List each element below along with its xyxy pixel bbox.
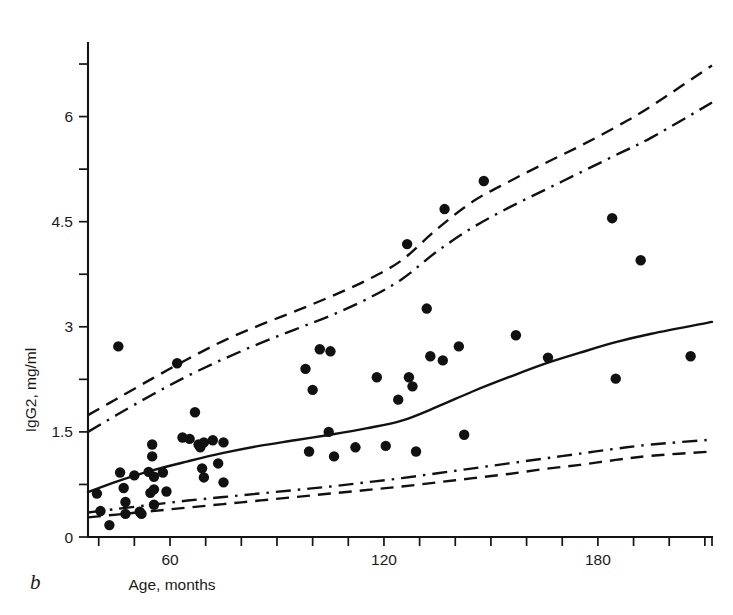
axis-labels-group: 01.534.5660120180: [51, 108, 611, 568]
data-point: [113, 341, 123, 351]
data-point: [149, 484, 159, 494]
data-point: [393, 394, 403, 404]
data-point: [147, 451, 157, 461]
data-point: [213, 458, 223, 468]
data-point: [425, 351, 435, 361]
data-point: [439, 204, 449, 214]
data-point: [511, 330, 521, 340]
data-point: [479, 176, 489, 186]
data-point: [95, 506, 105, 516]
reference-curve-lower-outer: [88, 452, 712, 518]
data-point: [323, 427, 333, 437]
scatter-plot-canvas: 01.534.5660120180 Age, months IgG2, mg/m…: [0, 0, 733, 615]
data-point: [329, 451, 339, 461]
data-point: [199, 437, 209, 447]
y-axis-tick-label: 4.5: [51, 213, 73, 230]
data-point: [543, 352, 553, 362]
reference-curves-group: [88, 65, 712, 517]
data-point: [454, 341, 464, 351]
data-point: [104, 520, 114, 530]
data-point: [438, 355, 448, 365]
data-point: [120, 497, 130, 507]
data-point: [315, 344, 325, 354]
y-axis-tick-label: 6: [64, 108, 73, 125]
data-point: [407, 381, 417, 391]
x-axis-tick-label: 180: [585, 551, 611, 568]
data-point: [147, 439, 157, 449]
panel-label: b: [30, 570, 41, 594]
y-axis-title: IgG2, mg/ml: [22, 348, 39, 432]
reference-curve-lower-inner: [88, 440, 712, 513]
data-point: [190, 407, 200, 417]
reference-curve-median: [88, 322, 712, 492]
data-point: [208, 435, 218, 445]
data-point: [161, 486, 171, 496]
y-axis-tick-label: 1.5: [51, 423, 73, 440]
data-point: [350, 442, 360, 452]
data-point: [635, 255, 645, 265]
x-axis-tick-label: 120: [371, 551, 397, 568]
data-point: [611, 373, 621, 383]
data-point: [197, 463, 207, 473]
data-point: [115, 467, 125, 477]
data-point: [199, 472, 209, 482]
x-axis-tick-label: 60: [161, 551, 179, 568]
data-point: [300, 364, 310, 374]
data-point: [218, 437, 228, 447]
data-point: [218, 477, 228, 487]
data-point: [304, 446, 314, 456]
data-point: [607, 213, 617, 223]
data-point: [118, 483, 128, 493]
data-point: [172, 358, 182, 368]
data-point: [411, 446, 421, 456]
data-point: [120, 509, 130, 519]
x-axis-title: Age, months: [128, 576, 215, 593]
y-axis-tick-label: 0: [64, 529, 73, 546]
data-point: [149, 472, 159, 482]
figure-panel: 01.534.5660120180 Age, months IgG2, mg/m…: [0, 0, 733, 615]
data-point: [92, 488, 102, 498]
data-point: [325, 346, 335, 356]
data-point: [372, 372, 382, 382]
y-axis-tick-label: 3: [64, 318, 73, 335]
data-point: [149, 500, 159, 510]
data-point: [307, 385, 317, 395]
data-point: [184, 434, 194, 444]
data-point: [685, 351, 695, 361]
data-point: [136, 509, 146, 519]
data-point: [381, 441, 391, 451]
data-point: [404, 372, 414, 382]
data-point: [422, 303, 432, 313]
data-point: [402, 239, 412, 249]
data-point: [459, 430, 469, 440]
axes-group: [79, 43, 712, 546]
data-point: [158, 467, 168, 477]
data-points-group: [92, 176, 696, 530]
data-point: [129, 470, 139, 480]
